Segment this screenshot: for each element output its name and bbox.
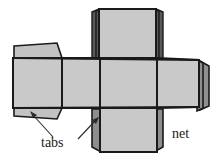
tab-left-arm-upper [14,43,62,58]
face-center [100,58,157,108]
face-center-left [62,58,100,108]
cube-net-diagram: tabs net [0,0,218,162]
foldline-bottom-band [13,107,199,108]
tab-left-arm-lower [14,108,62,119]
face-bottom-flap [100,108,157,152]
face-right-arm [157,58,199,108]
face-top-flap [99,9,156,60]
figure-root: tabs net [0,0,218,162]
label-tabs: tabs [41,135,64,150]
face-left-arm [13,58,62,108]
label-net: net [172,126,189,141]
